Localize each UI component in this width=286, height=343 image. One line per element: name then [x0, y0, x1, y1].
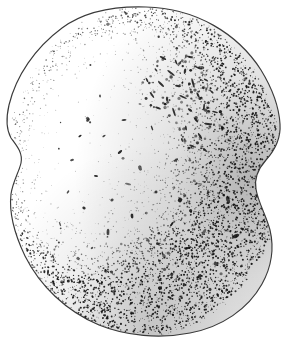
figure-container: Black and white stipple drawing of a rou… — [0, 0, 286, 343]
specimen-illustration: Stipple illustration of an ovoid specime… — [0, 0, 286, 343]
